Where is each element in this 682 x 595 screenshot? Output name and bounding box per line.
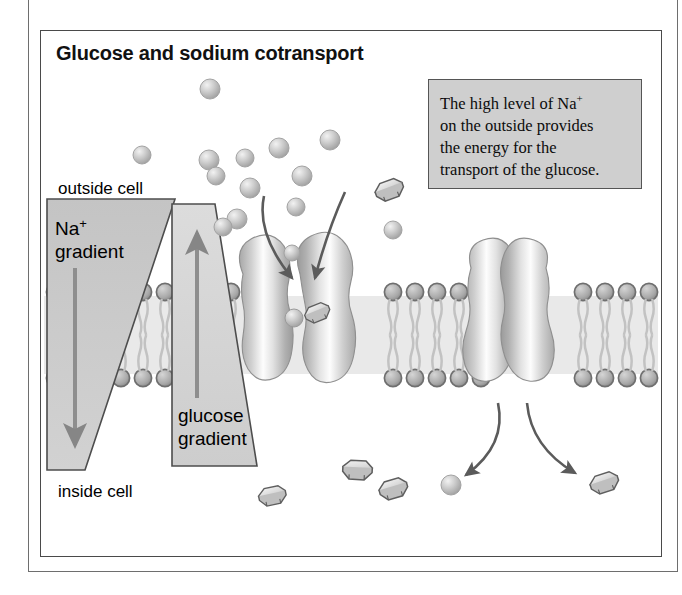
cotransporter-open-inward: [463, 238, 555, 381]
outbound-glucose-arrow: [527, 403, 575, 473]
callout-superscript: +: [577, 92, 583, 104]
label-outside-cell: outside cell: [58, 179, 143, 199]
callout-line-1: The high level of Na: [440, 94, 577, 113]
figure-title: Glucose and sodium cotransport: [56, 42, 363, 65]
figure-root: Glucose and sodium cotransport outside c…: [0, 0, 682, 595]
na-text: Na: [55, 218, 79, 239]
callout-line-3: the energy for the: [440, 138, 557, 157]
glucose-gradient-word: gradient: [178, 428, 247, 449]
na-superscript: +: [79, 216, 87, 231]
glucose-word: glucose: [178, 405, 244, 426]
callout-box: The high level of Na+ on the outside pro…: [428, 79, 642, 189]
sodium-inside: [441, 475, 461, 495]
callout-line-4: transport of the glucose.: [440, 160, 599, 179]
glucose-gradient-label: glucose gradient: [178, 404, 247, 450]
glucose-outside: [373, 176, 406, 203]
bound-sodium-ion: [285, 309, 303, 327]
label-inside-cell: inside cell: [58, 482, 133, 502]
callout-line-2: on the outside provides: [440, 116, 594, 135]
outbound-arrows: [466, 403, 575, 475]
sodium-gradient-label: Na+ gradient: [55, 212, 124, 263]
na-gradient-word: gradient: [55, 241, 124, 262]
outbound-na-arrow: [466, 403, 500, 475]
